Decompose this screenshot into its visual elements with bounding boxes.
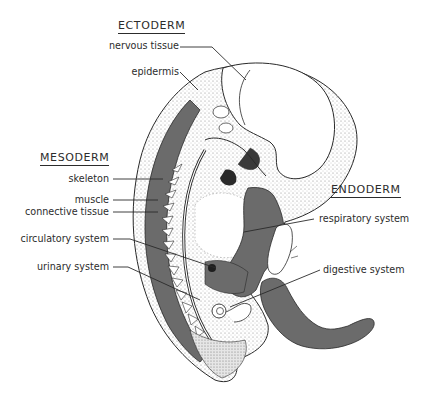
- mesoderm-heading: MESODERM: [40, 151, 109, 166]
- label-urinary-system: urinary system: [0, 261, 109, 273]
- ectoderm-heading: ECTODERM: [118, 19, 185, 34]
- label-epidermis: epidermis: [103, 66, 179, 78]
- label-respiratory-system: respiratory system: [319, 213, 409, 225]
- label-circulatory-system: circulatory system: [0, 233, 109, 245]
- label-digestive-system: digestive system: [323, 264, 405, 276]
- label-connective-tissue: connective tissue: [0, 206, 109, 218]
- label-nervous-tissue: nervous tissue: [103, 40, 179, 52]
- leg: [260, 278, 374, 349]
- label-muscle: muscle: [0, 194, 109, 206]
- label-skeleton: skeleton: [0, 173, 109, 185]
- endoderm-heading: ENDODERM: [331, 183, 401, 198]
- embryo-diagram: ECTODERM nervous tissue epidermis MESODE…: [0, 0, 422, 399]
